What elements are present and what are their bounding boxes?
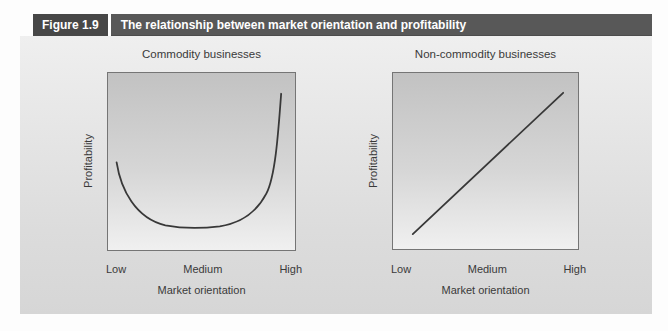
figure-page: Figure 1.9 The relationship between mark… — [0, 0, 668, 331]
commodity-x-ticks: Low Medium High — [106, 263, 302, 275]
noncommodity-plot-area — [392, 72, 579, 250]
commodity-tick-high: High — [279, 263, 302, 275]
commodity-y-axis-label: Profitability — [81, 101, 95, 221]
figure-number-label: Figure 1.9 — [33, 14, 108, 36]
noncommodity-line — [413, 93, 563, 234]
commodity-tick-low: Low — [106, 263, 126, 275]
noncommodity-plot-svg — [393, 73, 578, 249]
commodity-plot-svg — [108, 73, 295, 250]
noncommodity-chart-title: Non-commodity businesses — [392, 48, 579, 60]
noncommodity-y-axis-label: Profitability — [366, 101, 380, 221]
commodity-tick-medium: Medium — [183, 263, 222, 275]
noncommodity-tick-high: High — [563, 263, 586, 275]
figure-title: The relationship between market orientat… — [111, 14, 652, 36]
commodity-chart-title: Commodity businesses — [107, 48, 296, 60]
commodity-curve — [117, 94, 282, 228]
noncommodity-tick-low: Low — [391, 263, 411, 275]
commodity-plot-area — [107, 72, 296, 251]
noncommodity-tick-medium: Medium — [468, 263, 507, 275]
figure-header: Figure 1.9 The relationship between mark… — [33, 14, 652, 36]
commodity-x-axis-label: Market orientation — [107, 284, 296, 296]
noncommodity-x-ticks: Low Medium High — [391, 263, 586, 275]
noncommodity-x-axis-label: Market orientation — [392, 284, 579, 296]
